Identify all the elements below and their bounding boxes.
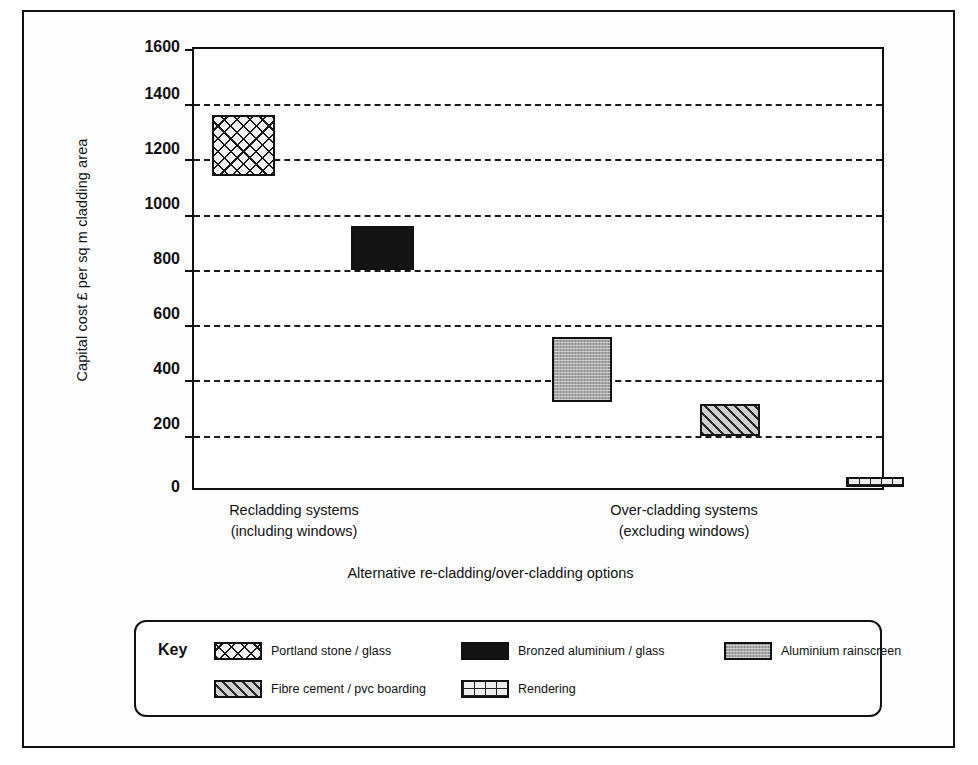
y-tick-1400: 1400 [120, 86, 180, 102]
bar-portland-stone-glass [212, 115, 275, 176]
legend-item-aluminium-rainscreen: Aluminium rainscreen [724, 642, 901, 660]
bar-bronzed-aluminium-glass [351, 226, 414, 270]
plot-inner [194, 49, 882, 488]
y-tick-200: 200 [120, 416, 180, 432]
legend-label-aluminium-rainscreen: Aluminium rainscreen [781, 645, 901, 658]
x-category-overcladding-line1: Over-cladding systems [554, 500, 814, 521]
legend-label-fibre-cement-pvc-boarding: Fibre cement / pvc boarding [271, 683, 426, 696]
tick-mark-1600 [185, 49, 194, 51]
plot-area [192, 47, 884, 490]
legend-label-rendering: Rendering [518, 683, 576, 696]
gridline-600 [194, 325, 882, 327]
y-tick-600: 600 [120, 306, 180, 322]
legend-item-fibre-cement-pvc-boarding: Fibre cement / pvc boarding [214, 680, 426, 698]
gridline-800 [194, 270, 882, 272]
legend-box: Key Portland stone / glass Bronzed alumi… [134, 620, 882, 717]
y-tick-0: 0 [120, 479, 180, 495]
tick-mark-800 [185, 270, 194, 272]
bar-fibre-cement-pvc-boarding [700, 404, 760, 436]
y-axis-title: Capital cost £ per sq m cladding area [74, 110, 90, 410]
chart-figure: Capital cost £ per sq m cladding area 16… [24, 12, 957, 750]
grey-swatch-icon [724, 642, 772, 660]
tick-mark-200 [185, 436, 194, 438]
y-tick-1000: 1000 [120, 196, 180, 212]
legend-item-rendering: Rendering [461, 680, 576, 698]
bar-rendering [846, 477, 904, 487]
solid-black-swatch-icon [461, 642, 509, 660]
x-axis-title: Alternative re-cladding/over-cladding op… [24, 565, 957, 581]
tick-mark-1400 [185, 104, 194, 106]
x-category-overcladding: Over-cladding systems (excluding windows… [554, 500, 814, 542]
tick-mark-1000 [185, 215, 194, 217]
y-tick-400: 400 [120, 361, 180, 377]
tick-mark-1200 [185, 159, 194, 161]
crosshatch-swatch-icon [214, 642, 262, 660]
y-tick-1600: 1600 [120, 39, 180, 55]
gridline-400 [194, 380, 882, 382]
legend-item-bronzed-aluminium-glass: Bronzed aluminium / glass [461, 642, 665, 660]
x-category-recladding-line1: Recladding systems [174, 500, 414, 521]
x-category-recladding: Recladding systems (including windows) [174, 500, 414, 542]
legend-label-bronzed-aluminium-glass: Bronzed aluminium / glass [518, 645, 665, 658]
bar-aluminium-rainscreen [552, 337, 612, 402]
gridline-200 [194, 436, 882, 438]
tick-mark-400 [185, 380, 194, 382]
legend-item-portland-stone-glass: Portland stone / glass [214, 642, 391, 660]
brick-swatch-icon [461, 680, 509, 698]
legend-title: Key [158, 641, 187, 659]
page-border: Capital cost £ per sq m cladding area 16… [22, 10, 955, 748]
y-tick-800: 800 [120, 251, 180, 267]
x-category-recladding-line2: (including windows) [174, 521, 414, 542]
tick-mark-600 [185, 325, 194, 327]
gridline-1200 [194, 159, 882, 161]
x-category-overcladding-line2: (excluding windows) [554, 521, 814, 542]
y-axis-tick-labels: 1600 1400 1200 1000 800 600 400 200 0 [120, 47, 180, 490]
gridline-1000 [194, 215, 882, 217]
gridline-1400 [194, 104, 882, 106]
y-tick-1200: 1200 [120, 141, 180, 157]
legend-label-portland-stone-glass: Portland stone / glass [271, 645, 391, 658]
diagonal-hatch-swatch-icon [214, 680, 262, 698]
